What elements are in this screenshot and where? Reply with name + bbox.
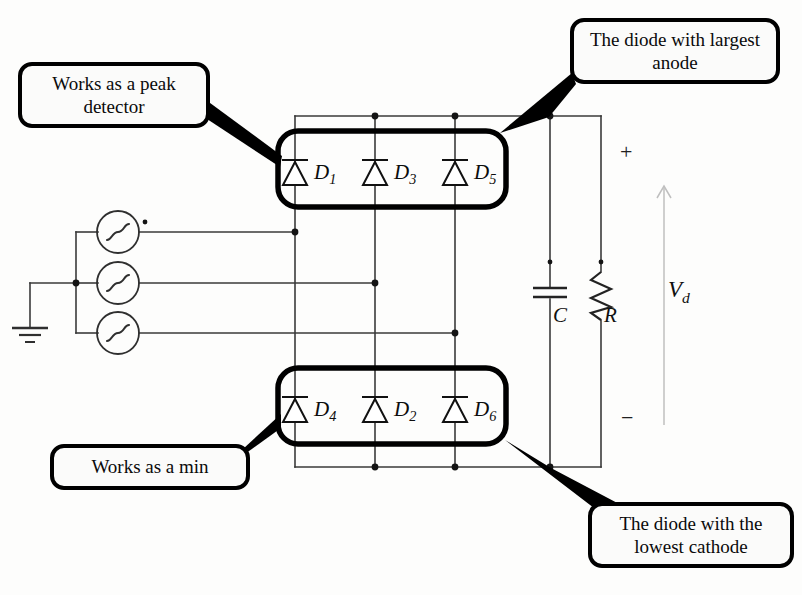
callout-tail-largest-anode [500, 73, 576, 133]
diode-D3 [362, 160, 388, 185]
diode-D5 [442, 160, 468, 185]
diode-D2 [362, 397, 388, 422]
polarity-plus-label: + [620, 139, 632, 165]
polarity-minus-label: − [621, 405, 633, 431]
diode-label-D6: D6 [474, 397, 496, 425]
capacitor-node-dot [548, 260, 553, 265]
resistor-label: R [604, 303, 617, 328]
junction-top-b [372, 113, 379, 120]
circuit-diagram-canvas: D1 D3 D5 D4 D2 D6 C R Vd + − Works as a … [0, 0, 802, 595]
capacitor-label: C [553, 303, 567, 328]
polarity-dot-phase-a [143, 220, 148, 225]
diode-group-box-top [278, 131, 506, 207]
resistor-node-dot [599, 260, 604, 265]
callout-largest-anode[interactable]: The diode with largest anode [570, 18, 780, 84]
ac-source-phase-c [97, 312, 139, 354]
callout-tail-lowest-cathode [505, 440, 623, 508]
junction-bottom-c [452, 464, 459, 471]
ac-source-phase-b [97, 262, 139, 304]
ground-icon [12, 328, 48, 342]
junction-feed-b [372, 280, 379, 287]
diode-label-D2: D2 [394, 397, 416, 425]
diode-label-D1: D1 [314, 160, 336, 188]
callout-peak-detector[interactable]: Works as a peak detector [18, 62, 210, 128]
junction-bottom-b [372, 464, 379, 471]
diode-D6 [442, 397, 468, 422]
callout-lowest-cathode[interactable]: The diode with the lowest cathode [588, 502, 794, 568]
output-voltage-label: Vd [668, 277, 690, 307]
diode-label-D5: D5 [474, 160, 496, 188]
diode-label-D4: D4 [314, 397, 336, 425]
diode-group-box-bottom [278, 368, 506, 444]
junction-neutral [73, 280, 80, 287]
diode-D1 [282, 160, 308, 185]
junction-top-c [452, 113, 459, 120]
callout-tail-peak-detector [204, 100, 282, 167]
diode-label-D3: D3 [394, 160, 416, 188]
junction-feed-a [292, 229, 299, 236]
ac-source-phase-a [97, 211, 147, 253]
callout-works-min[interactable]: Works as a min [50, 444, 250, 490]
junction-feed-c [452, 330, 459, 337]
diode-D4 [282, 397, 308, 422]
